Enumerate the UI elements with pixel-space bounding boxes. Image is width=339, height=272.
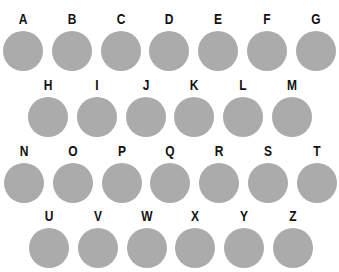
letter-cell-w[interactable]: W [126,208,168,270]
circle-button[interactable] [3,31,43,71]
letter-label: B [55,11,89,26]
circle-button[interactable] [53,163,93,203]
circle-button[interactable] [247,31,287,71]
letter-cell-h[interactable]: H [27,77,69,139]
letter-cell-k[interactable]: K [173,77,215,139]
letter-label: N [7,143,41,158]
circle-button[interactable] [224,228,264,268]
letter-cell-a[interactable]: A [2,11,44,73]
letter-cell-g[interactable]: G [295,11,337,73]
circle-button[interactable] [150,163,190,203]
circle-button[interactable] [199,163,239,203]
letter-cell-z[interactable]: Z [272,208,314,270]
letter-cell-t[interactable]: T [296,143,338,205]
letter-label: Y [227,208,261,223]
letter-label: M [275,77,309,92]
letter-cell-i[interactable]: I [76,77,118,139]
letter-label: A [6,11,40,26]
letter-label: J [129,77,163,92]
letter-cell-d[interactable]: D [148,11,190,73]
letter-label: Q [154,143,188,158]
letter-label: U [32,208,66,223]
circle-button[interactable] [223,97,263,137]
circle-button[interactable] [127,228,167,268]
letter-label: R [202,143,236,158]
letter-cell-s[interactable]: S [247,143,289,205]
letter-label: E [201,11,235,26]
letter-cell-e[interactable]: E [197,11,239,73]
letter-cell-n[interactable]: N [3,143,45,205]
circle-button[interactable] [273,228,313,268]
letter-cell-l[interactable]: L [222,77,264,139]
letter-label: S [251,143,285,158]
circle-button[interactable] [28,97,68,137]
circle-button[interactable] [101,31,141,71]
letter-cell-v[interactable]: V [77,208,119,270]
letter-label: H [31,77,65,92]
circle-button[interactable] [29,228,69,268]
letter-cell-q[interactable]: Q [149,143,191,205]
letter-label: K [178,77,212,92]
letter-label: I [80,77,114,92]
letter-cell-b[interactable]: B [51,11,93,73]
letter-label: C [104,11,138,26]
circle-button[interactable] [149,31,189,71]
circle-button[interactable] [78,228,118,268]
letter-label: L [226,77,260,92]
circle-button[interactable] [102,163,142,203]
letter-cell-c[interactable]: C [100,11,142,73]
circle-button[interactable] [198,31,238,71]
circle-button[interactable] [248,163,288,203]
letter-label: P [105,143,139,158]
letter-cell-p[interactable]: P [101,143,143,205]
circle-button[interactable] [174,97,214,137]
letter-cell-m[interactable]: M [271,77,313,139]
circle-button[interactable] [126,97,166,137]
letter-cell-f[interactable]: F [246,11,288,73]
letter-cell-r[interactable]: R [198,143,240,205]
circle-button[interactable] [77,97,117,137]
letter-cell-u[interactable]: U [28,208,70,270]
letter-cell-o[interactable]: O [52,143,94,205]
letter-label: Z [276,208,310,223]
letter-label: G [299,11,333,26]
letter-label: W [130,208,164,223]
letter-cell-x[interactable]: X [174,208,216,270]
letter-cell-j[interactable]: J [125,77,167,139]
letter-cell-y[interactable]: Y [223,208,265,270]
circle-button[interactable] [52,31,92,71]
letter-label: D [153,11,187,26]
letter-label: V [81,208,115,223]
circle-button[interactable] [272,97,312,137]
circle-button[interactable] [4,163,44,203]
letter-label: F [250,11,284,26]
letter-label: O [56,143,90,158]
circle-button[interactable] [296,31,336,71]
circle-button[interactable] [175,228,215,268]
letter-label: T [300,143,334,158]
letter-label: X [179,208,213,223]
circle-button[interactable] [297,163,337,203]
